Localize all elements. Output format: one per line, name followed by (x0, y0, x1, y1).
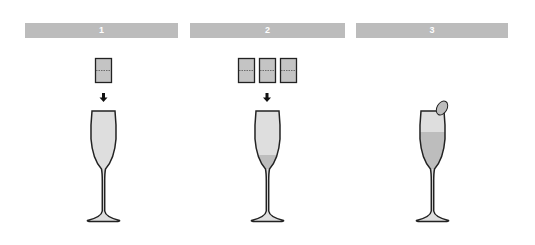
illustration (0, 0, 535, 245)
step-2-arrow-down-icon (263, 93, 271, 102)
step-1-arrow-down-icon (100, 93, 108, 102)
step-2-glass (251, 111, 283, 222)
step-1-glass (87, 111, 119, 222)
step-2-cubes (239, 59, 297, 83)
step-1-cube (96, 59, 112, 83)
step-3-glass (416, 111, 448, 222)
